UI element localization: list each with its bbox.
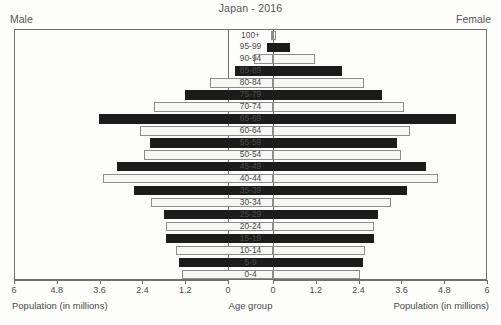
pyramid-row: 25-29 [0, 209, 501, 221]
population-pyramid-chart: Japan - 2016 Male Female 100+95-9990-948… [0, 0, 501, 325]
left-axis-tick-label: 4.8 [51, 285, 64, 295]
female-bar [273, 31, 276, 40]
age-group-label: 10-14 [228, 245, 273, 257]
right-axis-tick-label: 0 [270, 285, 275, 295]
pyramid-row: 0-4 [0, 269, 501, 281]
left-axis-line [14, 280, 229, 281]
left-axis-tick [142, 280, 143, 284]
female-bar [273, 246, 365, 255]
right-axis-tick-label: 2.4 [352, 285, 365, 295]
female-bar [273, 174, 438, 183]
pyramid-row: 55-59 [0, 137, 501, 149]
age-group-label: 15-19 [228, 233, 273, 245]
female-bar [273, 138, 397, 147]
pyramid-row: 35-39 [0, 185, 501, 197]
female-bar [273, 66, 342, 75]
left-axis-tick-label: 0 [225, 285, 230, 295]
left-axis-tick [100, 280, 101, 284]
age-group-label: 25-29 [228, 209, 273, 221]
age-group-label: 95-99 [228, 41, 273, 53]
female-bar [273, 102, 404, 111]
right-axis-line [273, 280, 488, 281]
pyramid-row: 45-49 [0, 161, 501, 173]
right-axis-tick [444, 280, 445, 284]
female-bar [273, 270, 360, 279]
pyramid-row: 75-79 [0, 89, 501, 101]
right-axis-tick [401, 280, 402, 284]
age-group-label: 60-64 [228, 125, 273, 137]
pyramid-row: 50-54 [0, 149, 501, 161]
age-group-label: 20-24 [228, 221, 273, 233]
left-axis-tick [185, 280, 186, 284]
pyramid-row: 30-34 [0, 197, 501, 209]
pyramid-row: 15-19 [0, 233, 501, 245]
pyramid-row: 65-69 [0, 113, 501, 125]
age-group-label: 85-89 [228, 65, 273, 77]
age-group-label: 35-39 [228, 185, 273, 197]
age-group-label: 55-59 [228, 137, 273, 149]
female-bar [273, 114, 456, 123]
right-axis-tick-label: 1.2 [310, 285, 323, 295]
pyramid-row: 90-94 [0, 53, 501, 65]
right-axis-tick-label: 3.6 [395, 285, 408, 295]
left-axis-tick-label: 3.6 [93, 285, 106, 295]
female-bar [273, 150, 401, 159]
left-axis-tick [14, 280, 15, 284]
left-axis-tick [57, 280, 58, 284]
age-group-label: 30-34 [228, 197, 273, 209]
female-bar [273, 222, 374, 231]
age-group-label: 90-94 [228, 53, 273, 65]
female-bar [273, 198, 391, 207]
female-bar [273, 162, 426, 171]
female-bar [273, 54, 315, 63]
left-axis-tick-label: 2.4 [136, 285, 149, 295]
pyramid-row: 60-64 [0, 125, 501, 137]
pyramid-row: 80-84 [0, 77, 501, 89]
pyramid-row: 40-44 [0, 173, 501, 185]
female-bar [273, 210, 378, 219]
age-group-label: 70-74 [228, 101, 273, 113]
pyramid-row: 85-89 [0, 65, 501, 77]
pyramid-row: 100+ [0, 30, 501, 42]
left-axis-tick-label: 1.2 [179, 285, 192, 295]
right-axis-tick [487, 280, 488, 284]
right-axis-tick-label: 4.8 [438, 285, 451, 295]
age-group-label: 5-9 [228, 257, 273, 269]
pyramid-row: 95-99 [0, 41, 501, 53]
age-group-label: 100+ [228, 30, 273, 42]
pyramid-row: 5-9 [0, 257, 501, 269]
female-bar [273, 43, 290, 52]
female-bar [273, 78, 364, 87]
age-group-label: 50-54 [228, 149, 273, 161]
pyramid-row: 10-14 [0, 245, 501, 257]
age-group-label: 75-79 [228, 89, 273, 101]
age-group-label: 0-4 [228, 269, 273, 281]
age-group-label: 80-84 [228, 77, 273, 89]
female-bar [273, 258, 363, 267]
female-bar [273, 234, 374, 243]
right-axis-tick [316, 280, 317, 284]
age-group-label: 65-69 [228, 113, 273, 125]
female-bar [273, 90, 382, 99]
age-group-label: 40-44 [228, 173, 273, 185]
pyramid-row: 70-74 [0, 101, 501, 113]
bar-rows-container: 100+95-9990-9485-8980-8475-7970-7465-696… [0, 0, 501, 325]
right-axis-tick [359, 280, 360, 284]
pyramid-row: 20-24 [0, 221, 501, 233]
female-bar [273, 186, 407, 195]
right-axis-tick [273, 280, 274, 284]
left-axis-tick [228, 280, 229, 284]
right-axis-tick-label: 6 [484, 285, 489, 295]
right-axis-title: Population (in millions) [393, 300, 489, 311]
left-axis-tick-label: 6 [11, 285, 16, 295]
age-group-label: 45-49 [228, 161, 273, 173]
female-bar [273, 126, 410, 135]
